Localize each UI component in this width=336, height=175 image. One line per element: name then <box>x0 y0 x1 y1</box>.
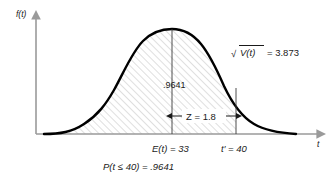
z-measure-label: Z = 1.8 <box>186 111 216 122</box>
radical-icon: √ <box>231 48 237 59</box>
mean-axis-label: E(t) = 33 <box>152 143 189 154</box>
std-dev-value: = 3.873 <box>267 47 299 58</box>
variance-expression: V(t) <box>240 47 255 58</box>
cutoff-axis-label: t′ = 40 <box>221 143 248 154</box>
probability-caption: P(t ≤ 40) = .9641 <box>103 161 174 172</box>
peak-density-label: .9641 <box>163 80 186 90</box>
normal-distribution-figure: f(t) t √ V(t) = 3.873 .9641 Z = 1.8 E(t)… <box>0 0 336 175</box>
y-axis-label: f(t) <box>16 9 27 19</box>
